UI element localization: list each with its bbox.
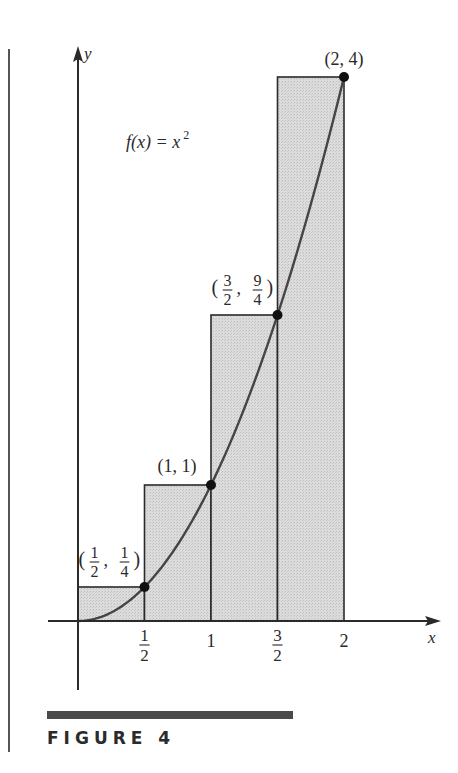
data-point-marker	[206, 480, 216, 490]
svg-text:2: 2	[140, 646, 149, 665]
caption-bar	[47, 711, 293, 719]
x-tick-labels: 121322	[139, 626, 348, 665]
point-label-y: 14	[120, 544, 130, 580]
riemann-rectangle	[278, 77, 345, 621]
svg-text:3: 3	[224, 272, 232, 289]
point-label-x: 12	[90, 544, 100, 580]
svg-text:2: 2	[224, 291, 232, 308]
x-tick-label: 12	[139, 626, 149, 665]
point-label: (2, 4)	[325, 49, 364, 70]
riemann-sum-figure: y x f(x) = x2 121322 (12,14)(1, 1)(32,94…	[0, 0, 458, 773]
data-point-marker	[339, 72, 349, 82]
svg-text:): )	[134, 548, 141, 571]
figure-caption: FIGURE 4	[47, 728, 175, 748]
point-label-x: 32	[223, 272, 233, 308]
svg-text:(: (	[79, 548, 86, 571]
x-tick-label: 32	[272, 626, 282, 665]
svg-text:(: (	[212, 276, 219, 299]
svg-text:): )	[267, 276, 274, 299]
svg-text:9: 9	[254, 272, 262, 289]
svg-text:1: 1	[140, 626, 149, 645]
x-axis-label: x	[427, 628, 436, 647]
point-label: (1, 1)	[158, 456, 197, 477]
svg-text:3: 3	[273, 626, 282, 645]
point-label: (12,14)	[79, 544, 141, 580]
x-tick-label: 2	[340, 631, 349, 651]
riemann-rectangle	[78, 587, 145, 621]
x-tick-label: 1	[207, 631, 216, 651]
riemann-rectangle	[211, 315, 278, 621]
svg-text:,: ,	[237, 278, 242, 298]
function-label-lhs: f(x) = x	[126, 132, 180, 153]
function-label-exponent: 2	[183, 128, 189, 142]
data-point-marker	[273, 310, 283, 320]
svg-text:2: 2	[273, 646, 282, 665]
function-label: f(x) = x2	[126, 128, 189, 153]
svg-text:1: 1	[91, 544, 99, 561]
svg-text:,: ,	[104, 550, 109, 570]
y-axis-label: y	[82, 44, 92, 63]
svg-text:2: 2	[91, 563, 99, 580]
point-label: (32,94)	[212, 272, 274, 308]
svg-text:1: 1	[121, 544, 129, 561]
point-label-y: 94	[253, 272, 263, 308]
riemann-rectangles	[78, 77, 344, 621]
data-point-marker	[140, 582, 150, 592]
svg-text:4: 4	[121, 563, 129, 580]
svg-text:4: 4	[254, 291, 262, 308]
